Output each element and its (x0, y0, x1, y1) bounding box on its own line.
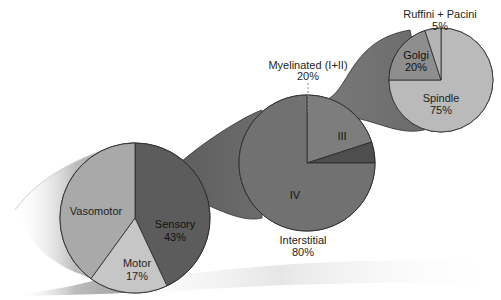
label-vasomotor: Vasomotor (70, 205, 123, 217)
label-iv: IV (290, 189, 301, 201)
label-sensory-pct: 43% (164, 231, 186, 243)
label-sensory: Sensory (155, 218, 196, 230)
label-iii: III (337, 130, 346, 142)
pie-chart-myelinated-composition (389, 28, 493, 132)
label-ruffini-pacini: Ruffini + Pacini (403, 8, 476, 20)
nerve-fiber-composition-diagram: Vasomotor Sensory 43% Motor 17% Myelinat… (0, 0, 501, 300)
label-spindle: Spindle (423, 92, 460, 104)
label-interstitial: Interstitial (279, 234, 326, 246)
label-spindle-pct: 75% (430, 104, 452, 116)
label-ruffini-pacini-pct: 5% (432, 20, 448, 32)
label-myelinated-pct: 20% (297, 70, 319, 82)
label-golgi-pct: 20% (405, 61, 427, 73)
label-motor: Motor (123, 257, 151, 269)
label-motor-pct: 17% (126, 270, 148, 282)
pie-chart-sensory-composition (239, 95, 375, 231)
label-interstitial-pct: 80% (292, 246, 314, 258)
label-golgi: Golgi (403, 49, 429, 61)
